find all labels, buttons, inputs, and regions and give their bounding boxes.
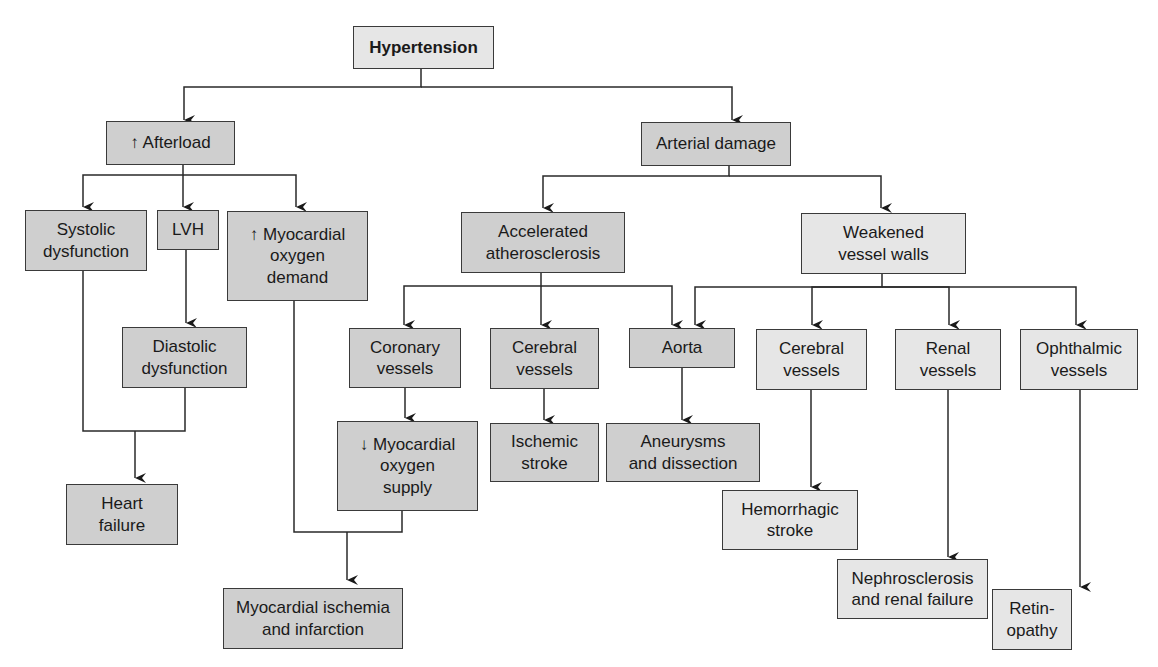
node-aorta: Aorta bbox=[629, 328, 735, 368]
node-nephrosclerosis: Nephrosclerosis and renal failure bbox=[837, 559, 988, 619]
node-systolic-dysfunction: Systolic dysfunction bbox=[25, 210, 147, 271]
node-hypertension: Hypertension bbox=[353, 26, 494, 69]
node-retinopathy: Retin- opathy bbox=[992, 589, 1072, 650]
node-accelerated-atherosclerosis: Accelerated atherosclerosis bbox=[461, 212, 625, 273]
node-lvh: LVH bbox=[157, 210, 219, 250]
node-ophthalmic-vessels: Ophthalmic vessels bbox=[1020, 329, 1138, 390]
node-hemorrhagic-stroke: Hemorrhagic stroke bbox=[722, 490, 858, 550]
node-coronary-vessels: Coronary vessels bbox=[349, 328, 461, 388]
node-heart-failure: Heart failure bbox=[66, 484, 178, 545]
node-diastolic-dysfunction: Diastolic dysfunction bbox=[122, 327, 247, 388]
node-cerebral-vessels-atherosclerosis: Cerebral vessels bbox=[490, 328, 599, 389]
node-cerebral-vessels-weakened: Cerebral vessels bbox=[756, 329, 867, 390]
node-myocardial-oxygen-demand: ↑ Myocardial oxygen demand bbox=[227, 211, 368, 301]
node-renal-vessels: Renal vessels bbox=[895, 329, 1001, 390]
node-ischemic-stroke: Ischemic stroke bbox=[490, 423, 599, 482]
node-myocardial-ischemia-infarction: Myocardial ischemia and infarction bbox=[223, 588, 403, 649]
node-arterial-damage: Arterial damage bbox=[641, 122, 791, 166]
node-weakened-vessel-walls: Weakened vessel walls bbox=[801, 213, 966, 274]
node-aneurysms-dissection: Aneurysms and dissection bbox=[606, 423, 760, 482]
node-afterload: ↑ Afterload bbox=[106, 121, 235, 165]
node-myocardial-oxygen-supply: ↓ Myocardial oxygen supply bbox=[337, 421, 478, 511]
